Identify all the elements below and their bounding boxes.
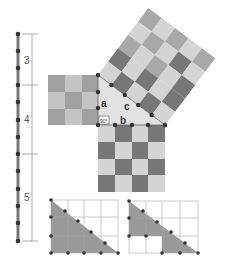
pythagoras-diagram: 3 4 5 90° a b c [0, 0, 233, 259]
side-label-c: c [124, 101, 130, 112]
right-angle-label: 90° [100, 118, 108, 124]
knotted-rope-ruler: 3 4 5 [16, 32, 38, 244]
square-a [48, 75, 98, 125]
square-b [98, 125, 165, 192]
grid-rearrangement-right [127, 199, 200, 255]
ruler-label-3: 3 [24, 55, 30, 66]
side-label-a: a [101, 98, 107, 109]
side-label-b: b [120, 115, 126, 126]
ruler-label-4: 4 [24, 114, 30, 125]
grid-rearrangement-left [49, 198, 120, 255]
ruler-label-5: 5 [24, 192, 30, 203]
